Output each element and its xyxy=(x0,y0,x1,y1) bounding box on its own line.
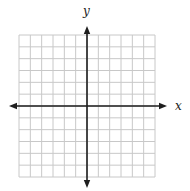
y-axis-down-arrow-icon xyxy=(84,180,90,188)
x-axis-left-arrow-icon xyxy=(9,103,17,109)
x-axis-right-arrow-icon xyxy=(159,103,167,109)
x-axis-label: x xyxy=(175,99,182,113)
coordinate-plane: x y xyxy=(0,0,190,191)
y-axis-label: y xyxy=(82,4,90,18)
y-axis-up-arrow-icon xyxy=(84,26,90,34)
